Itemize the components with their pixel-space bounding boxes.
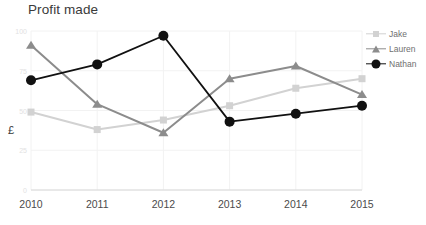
y-tick-label: 50 — [19, 107, 27, 114]
data-point — [292, 85, 299, 92]
data-point — [226, 102, 233, 109]
chart-screenshot: Profit made £ 1007550250 201020112012201… — [0, 0, 426, 225]
y-axis-title: £ — [8, 124, 14, 136]
data-point — [359, 75, 366, 82]
legend-swatch-square-icon — [366, 28, 386, 39]
x-tick-label: 2010 — [19, 198, 42, 210]
legend-item-jake[interactable]: Jake — [366, 26, 424, 41]
data-point — [94, 126, 101, 133]
data-point — [158, 31, 168, 41]
y-tick-label: 100 — [15, 28, 27, 35]
y-tick-label: 25 — [19, 147, 27, 154]
data-point — [291, 61, 301, 69]
series-line — [31, 79, 362, 130]
y-tick-label: 0 — [23, 187, 27, 194]
gridlines — [31, 31, 362, 190]
legend-item-nathan[interactable]: Nathan — [366, 56, 424, 71]
data-point — [357, 101, 367, 111]
data-point — [92, 59, 102, 69]
series-lauren — [26, 41, 367, 136]
data-point — [28, 109, 35, 116]
plot-area: 1007550250 201020112012201320142015 — [31, 31, 362, 190]
legend-swatch-circle-icon — [366, 58, 386, 69]
line-chart-svg — [31, 31, 362, 190]
page-title: Profit made — [28, 2, 98, 17]
chart-legend: JakeLaurenNathan — [366, 26, 424, 71]
data-point — [160, 117, 167, 124]
x-tick-label: 2012 — [152, 198, 175, 210]
y-tick-label: 75 — [19, 67, 27, 74]
series-jake — [28, 75, 366, 133]
data-point — [26, 75, 36, 85]
x-tick-label: 2011 — [86, 198, 109, 210]
x-tick-label: 2014 — [284, 198, 307, 210]
legend-item-lauren[interactable]: Lauren — [366, 41, 424, 56]
data-point — [26, 41, 36, 49]
series-line — [31, 45, 362, 132]
data-point — [291, 109, 301, 119]
legend-label: Nathan — [389, 59, 416, 69]
legend-swatch-triangle-icon — [366, 43, 386, 54]
series-line — [31, 36, 362, 122]
legend-label: Jake — [389, 29, 407, 39]
x-tick-label: 2013 — [218, 198, 241, 210]
data-point — [225, 117, 235, 127]
x-tick-label: 2015 — [350, 198, 373, 210]
series-layer — [26, 31, 367, 136]
legend-label: Lauren — [389, 44, 415, 54]
